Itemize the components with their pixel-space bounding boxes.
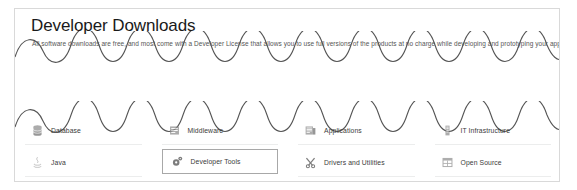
category-label: Open Source	[461, 158, 502, 167]
category-label: Drivers and Utilities	[324, 158, 385, 167]
category-cell-it-infrastructure[interactable]: IT Infrastructure	[425, 117, 561, 147]
open-source-icon	[441, 156, 454, 169]
category-row-primary: Database Middleware	[15, 117, 560, 147]
category-label: Database	[51, 126, 81, 135]
applications-icon	[304, 124, 317, 137]
developer-downloads-card: Developer Downloads All software downloa…	[14, 8, 560, 182]
database-icon	[31, 124, 44, 137]
developer-tools-icon	[171, 155, 184, 168]
decorative-wave-top	[15, 31, 560, 71]
category-row-secondary: Java Developer Tools	[15, 149, 560, 179]
middleware-icon	[168, 124, 181, 137]
java-icon	[31, 156, 44, 169]
category-cell-database[interactable]: Database	[15, 117, 152, 147]
category-cell-applications[interactable]: Applications	[288, 117, 425, 147]
category-cell-drivers-and-utilities[interactable]: Drivers and Utilities	[288, 149, 425, 179]
page-title: Developer Downloads	[31, 15, 195, 37]
category-cell-java[interactable]: Java	[15, 149, 152, 179]
category-cell-middleware[interactable]: Middleware	[152, 117, 289, 147]
page-subtitle: All software downloads are free, and mos…	[32, 39, 560, 49]
category-cell-open-source[interactable]: Open Source	[425, 149, 561, 179]
category-cell-developer-tools[interactable]: Developer Tools	[152, 149, 289, 179]
it-infrastructure-icon	[441, 124, 454, 137]
category-label: Applications	[324, 126, 362, 135]
category-label: Developer Tools	[191, 157, 241, 166]
category-label: Java	[51, 158, 66, 167]
category-label: Middleware	[188, 126, 224, 135]
category-label: IT Infrastructure	[461, 126, 511, 135]
drivers-icon	[304, 156, 317, 169]
screenshot-root: Developer Downloads All software downloa…	[0, 0, 577, 190]
